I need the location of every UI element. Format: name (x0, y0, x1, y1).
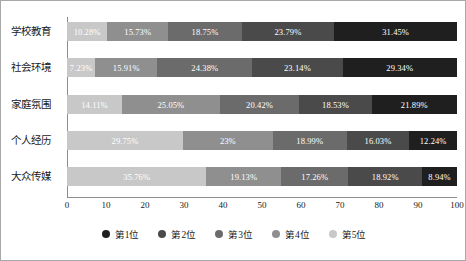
category-label: 个人经历 (1, 131, 61, 150)
bar-segment: 18.75% (168, 22, 241, 41)
bar-segment: 23.79% (242, 22, 335, 41)
legend-item[interactable]: 第3位 (215, 227, 253, 241)
category-label: 家庭氛围 (1, 95, 61, 114)
chart-container: 学校教育社会环境家庭氛围个人经历大众传媒 10.28%15.73%18.75%2… (0, 0, 466, 261)
bar-row: 35.76%19.13%17.26%18.92%8.94% (67, 167, 457, 186)
bar-segment: 21.89% (372, 95, 457, 114)
legend-item[interactable]: 第5位 (329, 227, 367, 241)
x-tick-label: 0 (65, 200, 70, 210)
legend-swatch-icon (272, 230, 280, 238)
legend-swatch-icon (329, 230, 337, 238)
bar-segment: 16.03% (347, 131, 410, 150)
bar-segment: 25.05% (122, 95, 220, 114)
x-tick-label: 20 (141, 200, 150, 210)
x-tick-label: 40 (219, 200, 228, 210)
bar-segment: 7.23% (67, 58, 95, 77)
bar-segment: 12.24% (409, 131, 457, 150)
bar-segment: 14.11% (67, 95, 122, 114)
legend-swatch-icon (158, 230, 166, 238)
bar-segment: 10.28% (67, 22, 107, 41)
bar-segment: 8.94% (422, 167, 457, 186)
bar-segment: 17.26% (281, 167, 348, 186)
x-tick-label: 50 (258, 200, 267, 210)
category-label: 学校教育 (1, 22, 61, 41)
x-tick-label: 80 (375, 200, 384, 210)
bar-segment: 29.75% (67, 131, 183, 150)
bar-segment: 24.38% (157, 58, 252, 77)
bar-segment: 15.73% (107, 22, 168, 41)
bar-segment: 31.45% (334, 22, 457, 41)
legend-swatch-icon (215, 230, 223, 238)
chart-legend: 第1位第2位第3位第4位第5位 (1, 227, 466, 241)
plot-area: 10.28%15.73%18.75%23.79%31.45%7.23%15.91… (67, 17, 457, 195)
x-tick-label: 70 (336, 200, 345, 210)
bar-row: 10.28%15.73%18.75%23.79%31.45% (67, 22, 457, 41)
bar-segment: 23% (183, 131, 273, 150)
bar-segment: 23.14% (252, 58, 342, 77)
x-tick-label: 90 (414, 200, 423, 210)
legend-label: 第2位 (171, 227, 196, 241)
legend-label: 第4位 (285, 227, 310, 241)
bar-row: 14.11%25.05%20.42%18.53%21.89% (67, 95, 457, 114)
x-tick-label: 100 (450, 200, 464, 210)
x-axis-tick-labels: 0102030405060708090100 (67, 200, 457, 214)
legend-label: 第1位 (115, 227, 140, 241)
legend-item[interactable]: 第1位 (102, 227, 140, 241)
x-tick-label: 10 (102, 200, 111, 210)
bar-segment: 15.91% (95, 58, 157, 77)
legend-item[interactable]: 第2位 (158, 227, 196, 241)
bar-segment: 35.76% (67, 167, 206, 186)
bar-segment: 18.53% (299, 95, 371, 114)
bar-row: 7.23%15.91%24.38%23.14%29.34% (67, 58, 457, 77)
bar-row: 29.75%23%18.99%16.03%12.24% (67, 131, 457, 150)
legend-label: 第3位 (228, 227, 253, 241)
legend-swatch-icon (102, 230, 110, 238)
x-tick-label: 30 (180, 200, 189, 210)
bar-segment: 29.34% (343, 58, 457, 77)
x-tick-label: 60 (297, 200, 306, 210)
legend-label: 第5位 (342, 227, 367, 241)
category-label: 社会环境 (1, 58, 61, 77)
legend-item[interactable]: 第4位 (272, 227, 310, 241)
bar-segment: 20.42% (220, 95, 300, 114)
bar-segment: 18.99% (273, 131, 347, 150)
bar-segment: 19.13% (206, 167, 281, 186)
bar-segment: 18.92% (348, 167, 422, 186)
category-label: 大众传媒 (1, 167, 61, 186)
x-axis-line (67, 197, 457, 198)
